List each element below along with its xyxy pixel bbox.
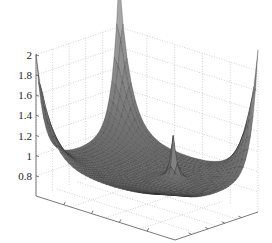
z-tick-label: 1: [27, 150, 33, 162]
z-tick: [36, 136, 39, 137]
z-tick: [36, 176, 39, 177]
y-tick: [238, 216, 241, 218]
surface-plot: 0.811.21.41.61.82: [0, 0, 272, 243]
z-gridline: [36, 67, 258, 111]
z-tick-label: 2: [27, 49, 33, 61]
x-tick: [119, 219, 121, 222]
z-tick-label: 1.2: [18, 130, 32, 142]
x-tick: [64, 202, 66, 205]
y-tick: [189, 233, 192, 235]
z-tick-label: 1.8: [18, 69, 32, 81]
z-tick-label: 1.4: [18, 109, 32, 121]
y-tick: [205, 227, 208, 229]
x-axis-line: [36, 196, 175, 240]
x-tick: [92, 211, 94, 214]
x-tick: [147, 228, 149, 231]
z-tick: [36, 156, 39, 157]
y-axis-line: [175, 212, 258, 240]
y-tick: [222, 222, 225, 224]
z-tick-labels: 0.811.21.41.61.82: [18, 49, 32, 182]
z-tick: [36, 95, 39, 96]
surface-patch: [249, 89, 256, 121]
z-tick: [36, 55, 39, 56]
z-tick-label: 0.8: [18, 170, 32, 182]
z-tick: [36, 115, 39, 116]
z-tick-label: 1.6: [18, 89, 32, 101]
